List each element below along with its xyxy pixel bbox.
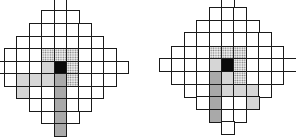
grid-cell xyxy=(103,73,117,87)
grid-cell xyxy=(233,109,247,123)
grid-cell xyxy=(258,84,272,98)
grid-cell-light xyxy=(246,96,260,110)
grid-cell xyxy=(116,61,130,75)
grid-cell xyxy=(91,86,105,100)
grid-cell xyxy=(283,58,296,72)
grid-cell xyxy=(66,111,80,125)
grid-cell xyxy=(221,121,235,135)
grid-cell-medium xyxy=(54,123,68,137)
grid-cell xyxy=(271,71,285,85)
grid-cell xyxy=(78,98,92,112)
